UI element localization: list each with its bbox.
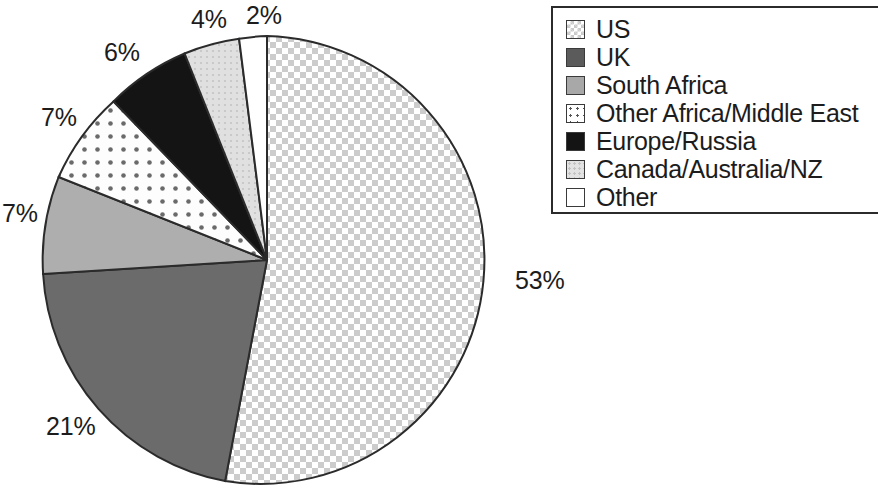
pie-chart-figure: 53% 21% 7% 7% 6% 4% 2% US UK South Afric… [0,0,878,488]
pie-label-uk: 21% [46,414,95,439]
legend-label-uk: UK [596,44,630,70]
legend-item-other-africa-middle-east: Other Africa/Middle East [566,99,858,127]
legend-item-other: Other [566,183,858,211]
legend-label-other: Other [596,184,657,210]
pie-label-other: 2% [246,3,282,28]
legend-list: US UK South Africa Other Africa/Middle E… [566,15,858,211]
pie-label-south-africa: 7% [2,201,38,226]
pie-label-canada-australia-nz: 4% [191,7,227,32]
legend-item-europe-russia: Europe/Russia [566,127,858,155]
pie-label-other-africa-middle-east: 7% [41,105,77,130]
legend-swatch-us-icon [566,20,585,39]
pie-label-us: 53% [515,268,564,293]
legend-swatch-south-africa-icon [566,76,585,95]
legend-label-canada-australia-nz: Canada/Australia/NZ [596,156,822,182]
legend-label-other-africa-middle-east: Other Africa/Middle East [596,100,858,126]
legend-item-uk: UK [566,43,858,71]
legend-swatch-other-africa-middle-east-icon [566,104,585,123]
legend-item-us: US [566,15,858,43]
legend-swatch-uk-icon [566,48,585,67]
legend-label-europe-russia: Europe/Russia [596,128,756,154]
legend-swatch-europe-russia-icon [566,132,585,151]
legend-item-canada-australia-nz: Canada/Australia/NZ [566,155,858,183]
legend-swatch-canada-australia-nz-icon [566,160,585,179]
legend-label-us: US [596,16,630,42]
legend-label-south-africa: South Africa [596,72,727,98]
legend-item-south-africa: South Africa [566,71,858,99]
legend-swatch-other-icon [566,188,585,207]
chart-legend: US UK South Africa Other Africa/Middle E… [551,6,878,214]
pie-label-europe-russia: 6% [104,40,140,65]
